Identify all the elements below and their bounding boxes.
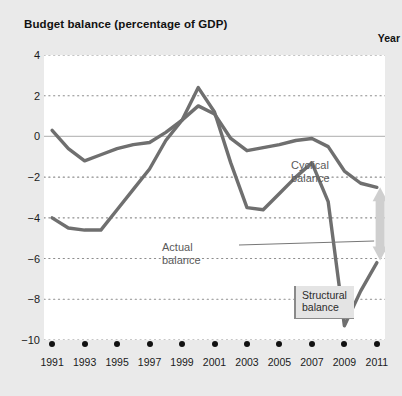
x-tick-dot	[82, 341, 88, 347]
annotation-actual-balance: Actual balance	[162, 241, 201, 267]
y-tick-label: −6	[12, 253, 40, 265]
x-tick-label: 1993	[73, 356, 96, 368]
y-tick-label: −8	[12, 293, 40, 305]
y-tick-label: 2	[12, 90, 40, 102]
x-tick-label: 2009	[333, 356, 356, 368]
chart-figure: Budget balance (percentage of GDP) 420−2…	[0, 0, 402, 396]
x-tick-dot	[49, 341, 55, 347]
x-tick-label: 1991	[40, 356, 63, 368]
y-tick-label: 4	[12, 49, 40, 61]
x-tick-dot	[244, 341, 250, 347]
annotation-structural-line2: balance	[302, 301, 339, 313]
x-tick-dot	[309, 341, 315, 347]
x-tick-label: 2011	[366, 356, 389, 368]
y-axis: 420−2−4−6−8−10	[6, 55, 40, 340]
y-tick-label: 0	[12, 130, 40, 142]
annotation-cyclical-balance: Cyclical balance	[291, 159, 330, 185]
x-tick-dot	[212, 341, 218, 347]
x-tick-dot	[179, 341, 185, 347]
x-tick-dot	[114, 341, 120, 347]
annotation-actual-line2: balance	[162, 254, 201, 266]
gap-double-arrow-icon	[373, 187, 385, 260]
x-tick-label: 1995	[105, 356, 128, 368]
x-tick-dot	[147, 341, 153, 347]
x-tick-label: 2007	[300, 356, 323, 368]
plot-area: Cyclical balance Actual balance Structur…	[44, 55, 385, 340]
x-tick-dot	[374, 341, 380, 347]
y-tick-label: −10	[12, 334, 40, 346]
y-tick-label: −4	[12, 212, 40, 224]
x-tick-label: 1997	[138, 356, 161, 368]
x-tick-dot	[341, 341, 347, 347]
annotation-actual-line1: Actual	[162, 241, 193, 253]
annotation-structural-line1: Structural	[302, 289, 347, 301]
structural-leader-line	[239, 241, 374, 245]
annotation-cyclical-line1: Cyclical	[291, 159, 329, 171]
y-tick-label: −2	[12, 171, 40, 183]
x-axis: 1991199319951997199920012003200520072009…	[44, 340, 385, 380]
annotation-cyclical-line2: balance	[291, 172, 330, 184]
x-tick-label: 2001	[203, 356, 226, 368]
x-axis-label: Year	[378, 32, 400, 44]
x-tick-label: 1999	[170, 356, 193, 368]
x-tick-label: 2003	[235, 356, 258, 368]
x-tick-label: 2005	[268, 356, 291, 368]
x-tick-dot	[276, 341, 282, 347]
chart-title: Budget balance (percentage of GDP)	[24, 18, 227, 30]
annotation-structural-balance: Structural balance	[294, 286, 354, 319]
